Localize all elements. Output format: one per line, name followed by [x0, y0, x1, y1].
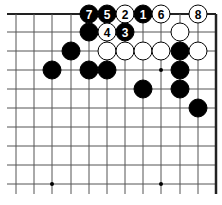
white-stone — [98, 42, 116, 60]
black-stone — [43, 61, 61, 79]
black-stone — [80, 23, 98, 41]
white-stone — [152, 42, 170, 60]
black-stone — [189, 99, 207, 117]
move-number: 3 — [122, 26, 129, 40]
white-stone-move-6: 6 — [152, 5, 170, 23]
move-number: 7 — [86, 8, 93, 22]
black-stone — [98, 61, 116, 79]
board-grid-lines — [7, 14, 216, 194]
star-point — [50, 182, 54, 186]
black-stone — [134, 80, 152, 98]
go-board: 75216843 — [0, 0, 222, 205]
black-stone-move-1: 1 — [134, 5, 152, 23]
black-stone-move-5: 5 — [98, 5, 116, 23]
white-stone — [189, 42, 207, 60]
black-stone-move-3: 3 — [116, 23, 134, 41]
black-stone — [62, 42, 80, 60]
black-stone — [171, 42, 189, 60]
star-point — [159, 182, 163, 186]
white-stone — [116, 42, 134, 60]
move-number: 2 — [122, 8, 129, 22]
black-stone — [171, 80, 189, 98]
white-stone — [134, 42, 152, 60]
white-stone-move-4: 4 — [98, 23, 116, 41]
black-stone — [171, 61, 189, 79]
move-number: 6 — [158, 8, 165, 22]
white-stone — [171, 23, 189, 41]
move-number: 5 — [104, 8, 111, 22]
move-number: 8 — [195, 8, 202, 22]
move-number: 1 — [140, 8, 147, 22]
black-stone-move-7: 7 — [80, 5, 98, 23]
move-number: 4 — [104, 26, 111, 40]
white-stone-move-8: 8 — [189, 5, 207, 23]
black-stone — [80, 61, 98, 79]
white-stone-move-2: 2 — [116, 5, 134, 23]
star-point — [159, 68, 163, 72]
